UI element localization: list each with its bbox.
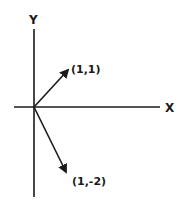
vector-1-neg2-label: (1,-2): [72, 175, 106, 188]
y-axis-label: Y: [28, 13, 38, 27]
vector-1-1-label: (1,1): [71, 63, 101, 76]
vector-1-neg2-arrow: [34, 107, 66, 172]
vector-diagram: Y X (1,1) (1,-2): [0, 0, 182, 205]
vector-1-1-arrow: [34, 70, 68, 107]
x-axis-label: X: [165, 101, 175, 115]
